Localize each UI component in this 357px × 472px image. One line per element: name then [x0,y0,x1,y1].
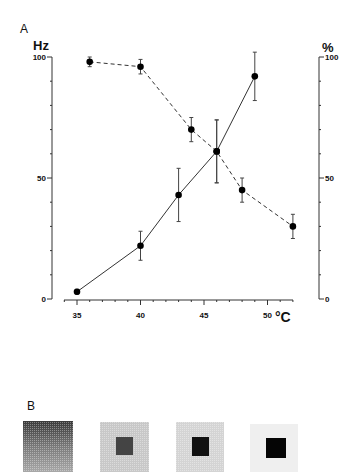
x-tick-label: 35 [73,311,82,320]
data-point [213,148,220,155]
data-point [137,242,144,249]
series-hz-solid [74,52,258,295]
data-point [239,187,246,194]
x-tick-label: 40 [136,311,145,320]
stimulus-square-2 [100,422,149,472]
figure: A Hz 050100 % 050100 35404550 °C B [0,0,357,472]
y-axis-left: Hz 050100 [33,38,52,304]
panel-b-label: B [27,399,35,413]
panel-b-stimuli [23,421,298,472]
x-axis: 35404550 °C [64,300,293,325]
y-right-tick-label: 0 [325,295,330,304]
data-point [74,288,81,295]
y-right-tick-label: 50 [325,174,334,183]
series-percent-dashed [86,57,296,239]
stimulus-square-4 [250,424,298,472]
x-tick-label: 45 [200,311,209,320]
stimulus-square-3 [176,422,224,472]
data-point [188,126,195,133]
y-left-tick-label: 0 [42,295,47,304]
data-point [137,63,144,70]
data-point [290,223,297,230]
y-right-tick-label: 100 [325,53,339,62]
panel-a-label: A [20,22,28,36]
data-point [86,59,93,66]
y-axis-left-unit: Hz [33,38,49,53]
data-point [252,73,259,80]
stimulus-square-1 [23,421,73,472]
data-point [175,192,182,199]
plot-area [74,52,297,295]
y-left-tick-label: 50 [37,174,46,183]
y-left-tick-label: 100 [33,53,47,62]
x-axis-unit: °C [275,309,291,325]
x-tick-label: 50 [263,311,272,320]
y-axis-right: % 050100 [319,40,339,304]
